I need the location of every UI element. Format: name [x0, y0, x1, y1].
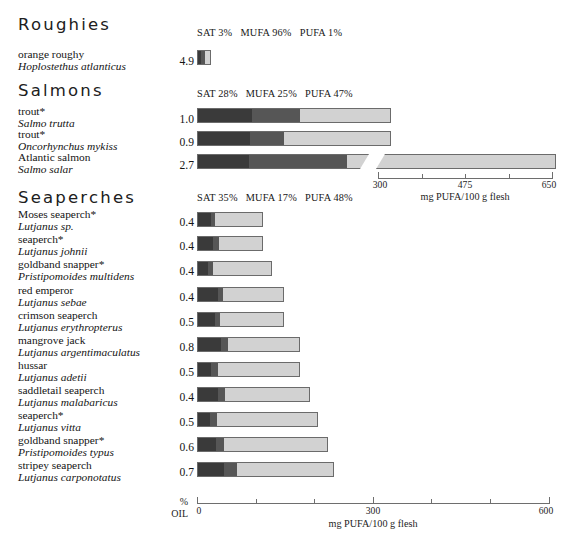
- sat-header-label: SAT 28%: [197, 88, 238, 99]
- bar-segment-sat: [198, 438, 216, 451]
- oil-column-header-line2: OIL: [171, 508, 188, 519]
- common-name: hussar: [18, 359, 87, 371]
- species-block: Atlantic salmon Salmo salar: [18, 151, 90, 175]
- bar-segment-sat: [198, 388, 218, 401]
- bar-segment-mufa: [218, 388, 225, 401]
- species-block: orange roughy Hoplostethus atlanticus: [18, 48, 126, 72]
- bar-segment-mufa: [249, 155, 346, 168]
- oil-percent-value: 0.6: [160, 441, 194, 454]
- mufa-header-label: MUFA 96%: [241, 27, 292, 38]
- bar-orange-roughy: [197, 50, 211, 65]
- bar-stripey-seaperch: [197, 462, 334, 477]
- main-axis-tick-200: [314, 499, 315, 504]
- scientific-name: Pristipomoides multidens: [18, 270, 134, 282]
- common-name: saddletail seaperch: [18, 384, 118, 396]
- bar-seaperch-johnii: [197, 236, 263, 251]
- oil-percent-value: 1.0: [160, 113, 194, 126]
- main-axis-tick-300: [373, 497, 374, 504]
- bar-segment-mufa: [252, 109, 300, 122]
- bar-segment-pufa: [205, 51, 210, 64]
- scientific-name: Lutjanus argentimaculatus: [18, 346, 140, 358]
- scientific-name: Lutjanus vitta: [18, 421, 81, 433]
- main-axis-tick-100: [256, 499, 257, 504]
- pufa-header-label: PUFA 47%: [305, 88, 353, 99]
- main-axis-tick-400: [431, 499, 432, 504]
- sat-header-label: SAT 35%: [197, 192, 238, 203]
- species-block: Moses seaperch* Lutjanus sp.: [18, 208, 96, 232]
- species-block: crimson seaperch Lutjanus erythropterus: [18, 309, 122, 333]
- species-block: seaperch* Lutjanus vitta: [18, 409, 81, 433]
- common-name: orange roughy: [18, 48, 126, 60]
- common-name: crimson seaperch: [18, 309, 122, 321]
- scientific-name: Lutjanus sp.: [18, 220, 96, 232]
- common-name: seaperch*: [18, 233, 87, 245]
- oil-column-header-line1: %: [180, 496, 188, 507]
- mufa-header-label: MUFA 25%: [246, 88, 297, 99]
- common-name: stripey seaperch: [18, 459, 121, 471]
- bar-segment-sat: [198, 313, 215, 326]
- bar-red-emperor: [197, 287, 284, 302]
- bar-segment-mufa: [250, 132, 285, 145]
- common-name: trout*: [18, 105, 75, 117]
- scientific-name: Lutjanus adetii: [18, 371, 87, 383]
- oil-percent-value: 0.7: [160, 466, 194, 479]
- break-inset-label-650: 650: [542, 179, 556, 190]
- oil-percent-value: 0.4: [160, 216, 194, 229]
- break-inset-tick-375: [422, 174, 423, 179]
- bar-segment-pufa: [228, 338, 299, 351]
- bar-segment-sat: [198, 237, 213, 250]
- oil-percent-value: 4.9: [160, 55, 194, 68]
- oil-percent-value: 0.4: [160, 291, 194, 304]
- species-block: saddletail seaperch Lutjanus malabaricus: [18, 384, 118, 408]
- main-axis-tick-500: [490, 499, 491, 504]
- bar-segment-pufa: [223, 288, 283, 301]
- species-block: stripey seaperch Lutjanus carponotatus: [18, 459, 121, 483]
- bar-segment-pufa: [284, 132, 390, 145]
- bar-segment-mufa: [210, 413, 217, 426]
- main-axis-tick-0: [197, 497, 198, 504]
- oil-percent-value: 0.9: [160, 136, 194, 149]
- bar-moses-seaperch: [197, 212, 263, 227]
- oil-percent-value: 0.8: [160, 341, 194, 354]
- break-inset-label-300: 300: [373, 179, 387, 190]
- bar-goldband-snapper-typus: [197, 437, 328, 452]
- scientific-name: Hoplostethus atlanticus: [18, 60, 126, 72]
- oil-percent-value: 0.4: [160, 265, 194, 278]
- bar-segment-sat: [198, 132, 250, 145]
- oil-percent-value: 0.4: [160, 391, 194, 404]
- sat-header-label: SAT 3%: [197, 27, 232, 38]
- scientific-name: Salmo salar: [18, 163, 90, 175]
- scientific-name: Lutjanus malabaricus: [18, 396, 118, 408]
- pufa-header-label: PUFA 48%: [305, 192, 353, 203]
- break-inset-tick-300: [378, 172, 379, 179]
- common-name: red emperor: [18, 284, 87, 296]
- break-inset-axis-title: mg PUFA/100 g flesh: [421, 191, 510, 202]
- common-name: trout*: [18, 128, 117, 140]
- pufa-header-label: PUFA 1%: [300, 27, 342, 38]
- bar-segment-sat: [198, 338, 221, 351]
- composition-header-seaperches: SAT 35% MUFA 17% PUFA 48%: [197, 192, 353, 203]
- species-block: hussar Lutjanus adetii: [18, 359, 87, 383]
- bar-segment-mufa: [224, 463, 238, 476]
- common-name: seaperch*: [18, 409, 81, 421]
- scientific-name: Lutjanus carponotatus: [18, 471, 121, 483]
- mufa-header-label: MUFA 17%: [246, 192, 297, 203]
- bar-segment-sat: [198, 109, 252, 122]
- species-block: seaperch* Lutjanus johnii: [18, 233, 87, 257]
- main-axis-label-300: 300: [366, 505, 380, 516]
- scientific-name: Lutjanus sebae: [18, 296, 87, 308]
- species-block: trout* Oncorhynchus mykiss: [18, 128, 117, 152]
- break-inset-tick-560: [509, 174, 510, 179]
- common-name: Atlantic salmon: [18, 151, 90, 163]
- main-axis-label-0: 0: [197, 505, 202, 516]
- species-block: red emperor Lutjanus sebae: [18, 284, 87, 308]
- bar-segment-pufa: [300, 109, 390, 122]
- scientific-name: Lutjanus erythropterus: [18, 321, 122, 333]
- fatty-acid-composition-figure: Roughies SAT 3% MUFA 96% PUFA 1% orange …: [0, 0, 572, 539]
- main-axis-label-600: 600: [539, 505, 553, 516]
- bar-segment-sat: [198, 413, 210, 426]
- bar-segment-pufa: [219, 237, 262, 250]
- bar-segment-pufa: [213, 262, 271, 275]
- bar-segment-pufa: [218, 363, 299, 376]
- composition-header-salmons: SAT 28% MUFA 25% PUFA 47%: [197, 88, 353, 99]
